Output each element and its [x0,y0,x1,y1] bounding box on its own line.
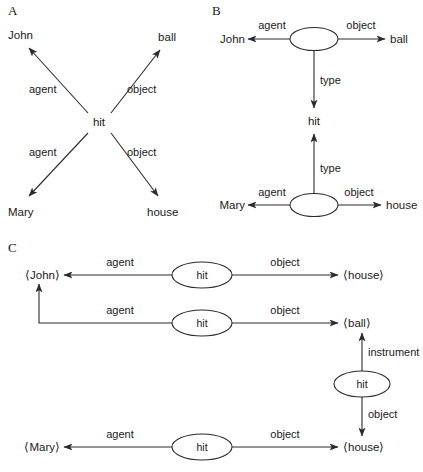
panel-c-row1-relation-object: object [270,256,299,268]
panel-c-row2-relation-agent: agent [106,304,134,316]
panel-b: B John agent ball object type hit type M… [212,3,417,217]
panel-a-center-node: hit [93,116,106,128]
figure-container: A hit John ball Mary house agent object … [0,0,423,472]
panel-c-row2-term-ball: ⟨ball⟩ [343,317,371,329]
panel-b-upper-node [290,28,338,51]
panel-b-relation-agent-upper: agent [258,19,286,31]
panel-c-row2-node-label: hit [196,317,207,329]
panel-a-edge-agent-john [29,48,88,113]
panel-a-relation-object-lower: object [127,146,156,158]
panel-b-type-node: hit [308,115,321,127]
panel-c-row4-node-label: hit [196,441,207,453]
semantic-network-figure: A hit John ball Mary house agent object … [0,0,423,472]
panel-c-relation-instrument-object: object [368,408,397,420]
panel-a-relation-agent-lower: agent [29,146,57,158]
panel-a-term-john: John [8,29,33,41]
panel-b-label: B [212,3,221,18]
panel-c-row1-term-john: ⟨John⟩ [25,269,60,281]
panel-b-term-john: John [220,33,245,45]
panel-a-label: A [8,3,18,18]
panel-c-row3-node-label: hit [356,378,367,390]
panel-b-relation-type-lower: type [320,162,341,174]
panel-c-label: C [8,240,17,255]
panel-b-lower-node [290,194,338,217]
panel-b-relation-type-upper: type [320,74,341,86]
panel-c-row1-term-house: ⟨house⟩ [343,269,384,281]
panel-a-edge-agent-mary [29,133,88,196]
panel-b-relation-agent-lower: agent [258,186,286,198]
panel-b-relation-object-upper: object [346,19,375,31]
panel-c-row4-relation-object: object [270,428,299,440]
panel-c-row4-term-house: ⟨house⟩ [343,441,384,453]
panel-a-relation-object-upper: object [127,83,156,95]
panel-b-term-ball: ball [390,33,408,45]
panel-c-row2-relation-object: object [270,304,299,316]
panel-b-term-house: house [386,199,417,211]
panel-a-term-ball: ball [158,31,176,43]
panel-b-term-mary: Mary [219,199,245,211]
panel-b-relation-object-lower: object [344,186,373,198]
panel-a-term-mary: Mary [8,206,34,218]
panel-c-row4-relation-agent: agent [106,428,134,440]
panel-c-relation-instrument: instrument [368,346,419,358]
panel-c: C hit ⟨John⟩ agent ⟨house⟩ object hit ag… [8,240,419,460]
panel-c-row4-term-mary: ⟨Mary⟩ [24,441,60,453]
panel-a-edge-object-house [111,133,158,196]
panel-c-row1-node-label: hit [196,269,207,281]
panel-a-relation-agent-upper: agent [29,83,57,95]
panel-a-term-house: house [147,206,178,218]
panel-a: A hit John ball Mary house agent object … [8,3,178,218]
panel-a-edge-object-ball [111,50,160,113]
panel-c-row1-relation-agent: agent [106,256,134,268]
